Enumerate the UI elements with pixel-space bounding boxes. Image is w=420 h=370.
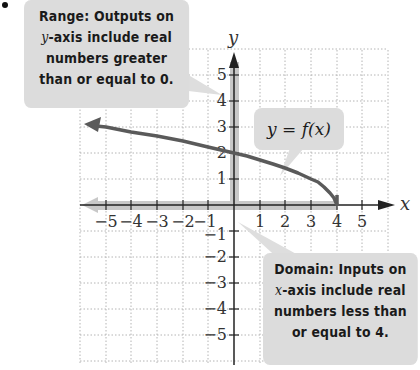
svg-text:−1: −1 [203, 225, 227, 244]
svg-text:−2: −2 [203, 247, 227, 266]
x-axis-label: x [400, 193, 410, 214]
y-axis-arrow [229, 52, 239, 68]
svg-text:4: 4 [332, 212, 342, 231]
domain-callout: Domain: Inputs on x-axis include real nu… [263, 253, 418, 365]
svg-text:1: 1 [255, 212, 265, 231]
domain-line-4: or equal to 4. [263, 322, 418, 343]
x-tick-labels: −5 −4 −3 −2 −1 1 2 3 4 5 [94, 212, 367, 231]
svg-text:3: 3 [306, 212, 316, 231]
svg-text:−3: −3 [145, 212, 169, 231]
domain-line-3: numbers less than [263, 301, 418, 322]
svg-text:4: 4 [217, 91, 227, 110]
range-line-2: y-axis include real [24, 27, 189, 48]
svg-text:5: 5 [357, 212, 367, 231]
svg-text:−5: −5 [203, 325, 227, 344]
svg-text:−4: −4 [119, 212, 143, 231]
curve-left-arrow [84, 117, 101, 132]
domain-line-1: Domain: Inputs on [263, 259, 418, 280]
domain-line-2: x-axis include real [263, 280, 418, 301]
svg-text:−5: −5 [94, 212, 118, 231]
svg-text:2: 2 [280, 212, 290, 231]
y-axis-label: y [227, 27, 239, 48]
svg-text:−3: −3 [203, 273, 227, 292]
range-line-3: numbers greater [24, 48, 189, 69]
function-label: y = f(x) [254, 108, 344, 150]
svg-text:5: 5 [217, 65, 227, 84]
x-axis-arrow [378, 200, 395, 210]
range-line-1: Range: Outputs on [24, 6, 189, 27]
svg-text:−4: −4 [203, 299, 227, 318]
svg-text:−2: −2 [171, 212, 195, 231]
svg-text:3: 3 [217, 117, 227, 136]
range-line-4: than or equal to 0. [24, 69, 189, 90]
range-callout: Range: Outputs on y-axis include real nu… [24, 0, 189, 108]
svg-text:1: 1 [217, 169, 227, 188]
